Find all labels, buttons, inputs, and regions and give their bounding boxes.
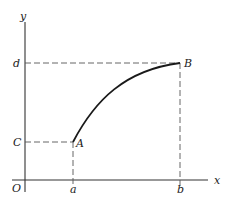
diagram-canvas: y x O d C a b A B [0,0,233,198]
x-tick-a: a [70,183,77,196]
y-tick-C: C [13,136,22,149]
y-tick-d: d [13,57,20,70]
x-tick-b: b [177,183,184,196]
origin-label: O [12,182,21,195]
point-B-label: B [183,57,192,70]
x-axis-label: x [214,174,221,187]
point-A-label: A [75,137,84,150]
y-axis-label: y [19,10,27,23]
coordinate-plot: y x O d C a b A B [0,0,233,198]
curve-A-B [73,63,180,142]
